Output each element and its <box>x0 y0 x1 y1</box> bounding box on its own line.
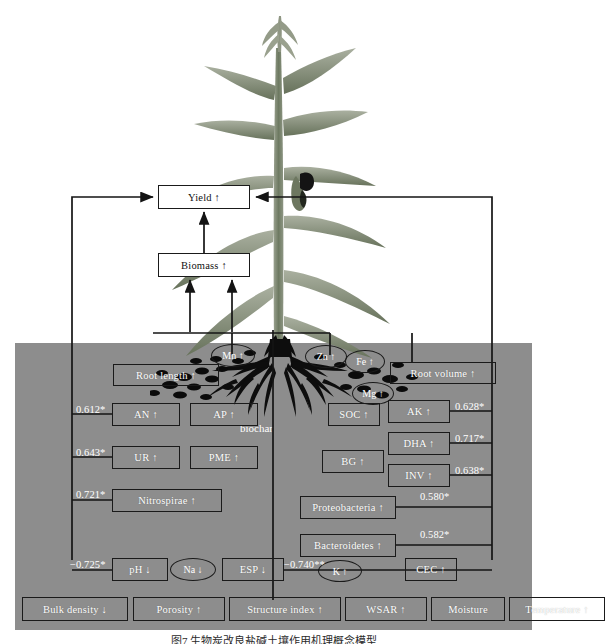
node-moisture-label: Moisture <box>448 604 488 615</box>
node-ak[interactable]: AK ↑ <box>388 400 450 423</box>
coef-esp: −0.740** <box>284 559 325 570</box>
node-proteobacteria[interactable]: Proteobacteria ↑ <box>300 496 396 519</box>
node-inv-label: INV ↑ <box>405 470 432 481</box>
node-na-label: Na ↓ <box>183 564 202 575</box>
node-ur[interactable]: UR ↑ <box>112 446 180 469</box>
node-zn[interactable]: Zn ↑ <box>305 345 347 368</box>
node-cec-label: CEC ↑ <box>416 564 445 575</box>
node-yield[interactable]: Yield ↑ <box>158 185 250 209</box>
node-ap[interactable]: AP ↑ <box>190 403 258 426</box>
coef-ur: 0.643* <box>76 447 105 458</box>
node-biomass-label: Biomass ↑ <box>181 260 227 271</box>
node-na[interactable]: Na ↓ <box>170 558 216 581</box>
node-bg-label: BG ↑ <box>341 456 364 467</box>
node-an[interactable]: AN ↑ <box>112 403 180 426</box>
coef-ak: 0.628* <box>455 401 484 412</box>
node-ap-label: AP ↑ <box>213 409 235 420</box>
node-inv[interactable]: INV ↑ <box>388 464 450 487</box>
node-wsar-label: WSAR ↑ <box>366 604 405 615</box>
coef-dha: 0.717* <box>455 433 484 444</box>
node-zn-label: Zn ↑ <box>317 351 336 362</box>
node-moisture[interactable]: Moisture <box>431 597 505 621</box>
node-root-volume[interactable]: Root volume ↑ <box>390 362 496 384</box>
node-cec[interactable]: CEC ↑ <box>405 558 457 581</box>
node-biomass[interactable]: Biomass ↑ <box>158 253 250 277</box>
coef-bacteroidetes: 0.582* <box>420 529 449 540</box>
figure-caption: 图7 生物炭改良盐碱土壤作用机理概念模型 <box>0 632 548 644</box>
node-k-label: K ↑ <box>333 566 348 577</box>
node-bulk-density[interactable]: Bulk density ↓ <box>22 597 128 621</box>
node-ak-label: AK ↑ <box>407 406 431 417</box>
node-bacteroidetes-label: Bacteroidetes ↑ <box>314 540 382 551</box>
coef-ph: −0.725* <box>70 559 106 570</box>
node-mg-label: Mg ↑ <box>362 388 383 399</box>
node-structure-index[interactable]: Structure index ↑ <box>229 597 341 621</box>
node-dha[interactable]: DHA ↑ <box>388 432 450 455</box>
node-esp[interactable]: ESP ↓ <box>222 558 284 581</box>
node-proteobacteria-label: Proteobacteria ↑ <box>312 502 384 513</box>
node-pme[interactable]: PME ↑ <box>190 446 258 469</box>
node-fe-label: Fe ↑ <box>356 356 374 367</box>
node-root-length[interactable]: Root length ↑ <box>113 364 219 386</box>
node-pme-label: PME ↑ <box>209 452 239 463</box>
node-ur-label: UR ↑ <box>134 452 157 463</box>
coef-inv: 0.638* <box>455 465 484 476</box>
node-ph-label: pH ↓ <box>129 564 151 575</box>
node-bulk-density-label: Bulk density ↓ <box>43 604 107 615</box>
node-temperature-label: Temperature ↑ <box>525 604 588 615</box>
coef-an: 0.612* <box>76 404 105 415</box>
node-root-volume-label: Root volume ↑ <box>410 368 475 379</box>
node-soc[interactable]: SOC ↑ <box>328 403 380 426</box>
node-esp-label: ESP ↓ <box>240 564 267 575</box>
node-mn-label: Mn ↑ <box>222 350 243 361</box>
node-wsar[interactable]: WSAR ↑ <box>345 597 427 621</box>
node-nitrospirae-label: Nitrospirae ↑ <box>138 495 196 506</box>
node-structure-index-label: Structure index ↑ <box>247 604 323 615</box>
maize-plant-illustration <box>150 8 410 358</box>
node-ph[interactable]: pH ↓ <box>112 558 168 581</box>
node-mg[interactable]: Mg ↑ <box>352 382 394 405</box>
node-bacteroidetes[interactable]: Bacteroidetes ↑ <box>300 534 396 557</box>
node-fe[interactable]: Fe ↑ <box>345 350 385 373</box>
node-an-label: AN ↑ <box>134 409 158 420</box>
node-soc-label: SOC ↑ <box>339 409 368 420</box>
node-root-length-label: Root length ↑ <box>136 370 196 381</box>
node-mn[interactable]: Mn ↑ <box>211 344 255 367</box>
node-yield-label: Yield ↑ <box>188 192 220 203</box>
coef-proteobacteria: 0.580* <box>420 491 449 502</box>
node-porosity[interactable]: Porosity ↑ <box>133 597 225 621</box>
node-temperature[interactable]: Temperature ↑ <box>509 597 605 621</box>
node-nitrospirae[interactable]: Nitrospirae ↑ <box>112 489 222 512</box>
node-dha-label: DHA ↑ <box>403 438 434 449</box>
node-bg[interactable]: BG ↑ <box>322 450 384 473</box>
coef-nitrospirae: 0.721* <box>76 489 105 500</box>
node-porosity-label: Porosity ↑ <box>157 604 202 615</box>
